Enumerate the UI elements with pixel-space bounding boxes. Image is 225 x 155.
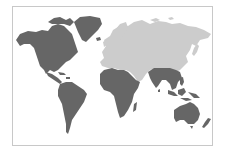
region-japan xyxy=(192,44,199,56)
region-new-zealand xyxy=(202,118,211,128)
world-map xyxy=(0,0,225,155)
region-tasmania xyxy=(190,126,193,129)
region-sri-lanka xyxy=(158,89,160,92)
region-canadian-arctic xyxy=(48,17,74,26)
region-arctic-islands xyxy=(150,17,174,22)
region-caribbean xyxy=(58,72,70,79)
region-philippines xyxy=(180,77,184,86)
region-indonesia xyxy=(168,88,200,101)
region-australia xyxy=(174,102,200,124)
region-south-america xyxy=(58,82,87,134)
region-madagascar xyxy=(133,102,137,112)
region-north-america xyxy=(16,24,78,74)
region-south-asia xyxy=(148,68,182,90)
region-iceland xyxy=(96,37,101,41)
